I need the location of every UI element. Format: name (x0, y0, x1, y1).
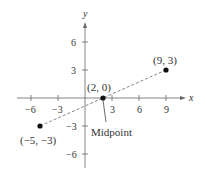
y-axis-label: y (82, 8, 88, 19)
midpoint-callout-line (103, 100, 106, 122)
x-tick-label: −6 (25, 104, 36, 115)
point-9-3 (163, 67, 168, 72)
y-tick-label: −3 (66, 121, 77, 132)
x-tick-label: 6 (137, 104, 142, 115)
y-tick-label: 3 (71, 65, 76, 76)
y-tick-label: −6 (66, 149, 77, 160)
x-tick-label: 3 (110, 104, 115, 115)
y-axis-arrow-icon (83, 22, 87, 28)
coordinate-plane: x y −6 −3 3 6 9 6 3 −3 −6 (−5, −3) (2, 0… (0, 0, 206, 178)
x-axis-label: x (188, 92, 194, 103)
midpoint-annotation: Midpoint (91, 126, 132, 138)
point-midpoint (100, 95, 105, 100)
x-axis-arrow-icon (180, 96, 186, 100)
y-tick-label: 6 (71, 37, 76, 48)
point-label: (9, 3) (153, 54, 177, 67)
point-neg5-neg3 (37, 123, 42, 128)
x-tick-label: 9 (164, 104, 169, 115)
x-tick-label: −3 (52, 104, 63, 115)
point-label: (2, 0) (87, 81, 111, 94)
point-label: (−5, −3) (20, 134, 57, 147)
